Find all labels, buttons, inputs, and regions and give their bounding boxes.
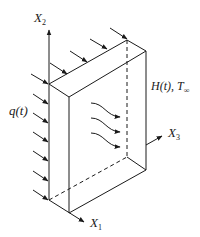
- internal-heat-flow-arrows: [91, 103, 120, 147]
- plate-diagram: [0, 0, 200, 237]
- plate-outline: [49, 40, 146, 213]
- heat-flux-arrows-top: [50, 28, 127, 74]
- x3-axis-label: X3: [168, 126, 180, 142]
- x1-axis: [49, 200, 84, 222]
- x1-axis-label: X1: [90, 216, 102, 232]
- x2-axis-label: X2: [34, 11, 46, 27]
- convection-label: H(t), T∞: [151, 80, 189, 95]
- heat-flux-label: q(t): [9, 104, 28, 117]
- heat-flux-arrows-left: [31, 74, 48, 200]
- hidden-edges: [49, 40, 127, 200]
- x3-axis: [146, 136, 162, 145]
